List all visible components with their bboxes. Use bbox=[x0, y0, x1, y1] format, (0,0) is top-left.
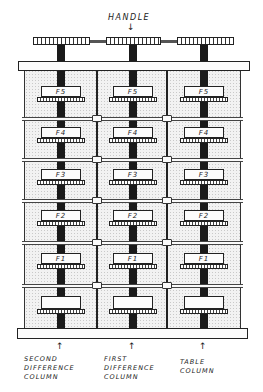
top-gear-first bbox=[106, 37, 161, 45]
rail bbox=[22, 199, 243, 203]
wheel-base-second bbox=[41, 296, 81, 309]
table-column-arrow-icon: ↑ bbox=[199, 341, 207, 351]
wheel-base bbox=[37, 138, 85, 143]
wheel-base bbox=[37, 180, 85, 185]
rail-clamp bbox=[162, 239, 172, 246]
bottom-plate bbox=[17, 328, 248, 339]
wheel-base bbox=[180, 264, 228, 269]
second-column-arrow-icon: ↑ bbox=[56, 341, 64, 351]
shaft-upper bbox=[129, 45, 137, 61]
handle-label: HANDLE bbox=[108, 13, 150, 22]
wheel-base bbox=[37, 221, 85, 226]
wheel-base bbox=[109, 264, 157, 269]
top-gear-second bbox=[33, 37, 90, 45]
label-line: COLUMN bbox=[180, 367, 215, 376]
wheel-f4-first: F4 bbox=[113, 127, 153, 138]
rail-clamp bbox=[92, 282, 102, 289]
rail-clamp bbox=[92, 239, 102, 246]
wheel-base bbox=[180, 180, 228, 185]
wheel-f2-second: F2 bbox=[41, 210, 81, 221]
rail-clamp bbox=[92, 156, 102, 163]
shaft-upper bbox=[200, 45, 208, 61]
first-difference-column-label: FIRST DIFFERENCE COLUMN bbox=[104, 355, 155, 382]
top-gear-table bbox=[177, 37, 234, 45]
gear-link bbox=[90, 40, 106, 43]
rail bbox=[22, 158, 243, 162]
wheel-f5-second: F5 bbox=[41, 86, 81, 97]
label-line: DIFFERENCE bbox=[104, 364, 155, 373]
wheel-f5-table: F5 bbox=[184, 86, 224, 97]
rail bbox=[22, 284, 243, 288]
wheel-f4-second: F4 bbox=[41, 127, 81, 138]
second-difference-column-label: SECOND DIFFERENCE COLUMN bbox=[24, 355, 75, 382]
wheel-f5-first: F5 bbox=[113, 86, 153, 97]
wheel-f1-second: F1 bbox=[41, 253, 81, 264]
wheel-base bbox=[180, 97, 228, 102]
wheel-base bbox=[37, 264, 85, 269]
wheel-f2-table: F2 bbox=[184, 210, 224, 221]
shaft-upper bbox=[57, 45, 65, 61]
wheel-base bbox=[180, 309, 228, 314]
rail-clamp bbox=[92, 197, 102, 204]
label-line: FIRST bbox=[104, 355, 155, 364]
wheel-base bbox=[37, 309, 85, 314]
wheel-f3-second: F3 bbox=[41, 169, 81, 180]
table-column-label: TABLE COLUMN bbox=[180, 358, 215, 376]
wheel-f1-table: F1 bbox=[184, 253, 224, 264]
wheel-f2-first: F2 bbox=[113, 210, 153, 221]
wheel-base-first bbox=[113, 296, 153, 309]
wheel-base bbox=[109, 221, 157, 226]
label-line: TABLE bbox=[180, 358, 215, 367]
wheel-base bbox=[109, 309, 157, 314]
wheel-base bbox=[109, 138, 157, 143]
label-line: COLUMN bbox=[104, 373, 155, 382]
rail bbox=[22, 117, 243, 121]
rail-clamp bbox=[162, 282, 172, 289]
rail-clamp bbox=[162, 156, 172, 163]
wheel-base bbox=[109, 97, 157, 102]
gear-link bbox=[161, 40, 177, 43]
wheel-f1-first: F1 bbox=[113, 253, 153, 264]
rail bbox=[22, 241, 243, 245]
wheel-base bbox=[37, 97, 85, 102]
wheel-base-table bbox=[184, 296, 224, 309]
handle-arrow-icon: ↓ bbox=[127, 22, 135, 32]
rail-clamp bbox=[162, 115, 172, 122]
wheel-base bbox=[180, 138, 228, 143]
rail-clamp bbox=[162, 197, 172, 204]
wheel-f3-first: F3 bbox=[113, 169, 153, 180]
wheel-base bbox=[180, 221, 228, 226]
label-line: SECOND bbox=[24, 355, 75, 364]
wheel-f4-table: F4 bbox=[184, 127, 224, 138]
wheel-base bbox=[109, 180, 157, 185]
rail-clamp bbox=[92, 115, 102, 122]
wheel-f3-table: F3 bbox=[184, 169, 224, 180]
first-column-arrow-icon: ↑ bbox=[128, 341, 136, 351]
label-line: COLUMN bbox=[24, 373, 75, 382]
label-line: DIFFERENCE bbox=[24, 364, 75, 373]
top-plate bbox=[18, 61, 250, 71]
